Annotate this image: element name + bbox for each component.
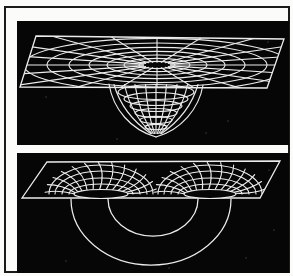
wormhole-tube xyxy=(71,199,231,265)
tube-inner-wall xyxy=(108,199,198,236)
wormhole-mouth-right xyxy=(184,190,236,199)
gravity-well-diagram xyxy=(17,21,289,145)
vortex-ray xyxy=(194,163,203,189)
scanned-figure-page xyxy=(0,0,293,276)
tube-outer-wall xyxy=(71,199,231,265)
vortex-ray xyxy=(106,163,113,190)
vortex-ray xyxy=(215,163,222,190)
figure-frame xyxy=(4,6,290,273)
radial-grid-lines xyxy=(17,30,289,100)
wormhole-mouth-left xyxy=(74,190,128,199)
radial-line xyxy=(170,54,289,64)
vortex-ray xyxy=(207,162,211,190)
funnel xyxy=(109,84,203,137)
gravity-well-panel xyxy=(17,21,289,145)
wormhole-diagram xyxy=(17,153,289,273)
wormhole-panel xyxy=(17,153,289,273)
vortex-ray xyxy=(98,162,102,190)
sheet-vortex-grids xyxy=(45,162,265,194)
